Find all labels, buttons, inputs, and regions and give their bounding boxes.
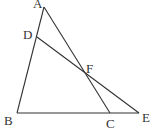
label-e: E [142,110,150,125]
label-d: D [23,27,32,42]
label-a: A [33,0,43,11]
label-b: B [4,113,13,128]
geometry-diagram: A D F B C E [0,0,153,129]
segment-ac [44,7,110,113]
label-c: C [106,116,115,129]
segment-ab [17,7,44,113]
label-f: F [86,61,93,76]
